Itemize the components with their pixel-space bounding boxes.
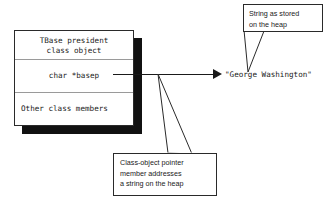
class-object-box: TBase president class object char *basep… xyxy=(14,30,134,126)
pointer-member-callout-tail-icon xyxy=(152,74,198,156)
heap-string-callout: String as stored on the heap xyxy=(243,4,323,32)
heap-string-callout-tail-icon xyxy=(238,30,278,72)
class-object-title: TBase president class object xyxy=(15,31,133,60)
diagram-canvas: TBase president class object char *basep… xyxy=(0,0,330,201)
heap-string-callout-text: String as stored on the heap xyxy=(249,9,299,29)
pointer-member: char *basep xyxy=(15,60,133,93)
other-members: Other class members xyxy=(15,93,133,124)
pointer-arrow-head-icon xyxy=(213,69,222,79)
pointer-member-callout-text: Class-object pointer member addresses a … xyxy=(120,158,184,188)
pointer-member-callout: Class-object pointer member addresses a … xyxy=(113,153,217,196)
